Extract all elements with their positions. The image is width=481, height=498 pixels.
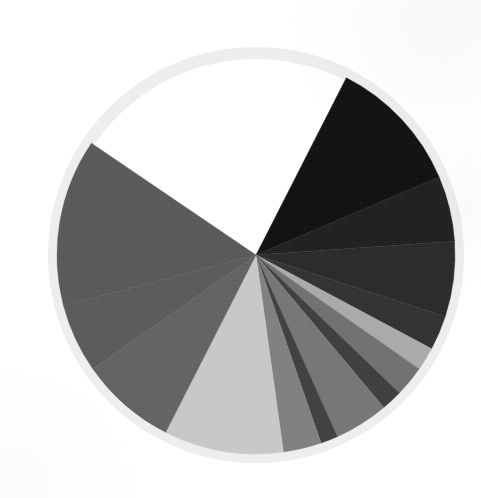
pie-chart-canvas	[0, 0, 481, 498]
pie-chart-figure	[0, 0, 481, 498]
